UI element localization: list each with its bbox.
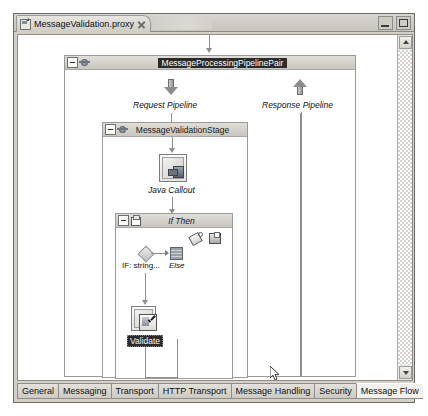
collapse-icon[interactable]	[67, 57, 78, 68]
connector-entry-line	[209, 35, 210, 49]
response-pipeline-label: Response Pipeline	[262, 100, 333, 110]
validate-exit-line	[145, 347, 146, 377]
pipeline-pair-title-wrap: MessageProcessingPipelinePair	[90, 58, 355, 68]
maximize-button[interactable]	[396, 16, 411, 30]
else-branch-line	[177, 339, 178, 377]
pipeline-pair-icon	[79, 57, 90, 68]
if-then-title-wrap: If Then	[141, 216, 232, 226]
validate-label: Validate	[127, 335, 163, 347]
if-then-icon	[130, 215, 141, 226]
stage-title: MessageValidationStage	[128, 125, 247, 135]
if-then-toolbar	[190, 231, 221, 244]
pipeline-pair-title: MessageProcessingPipelinePair	[158, 58, 288, 68]
if-then-header[interactable]: If Then	[116, 214, 232, 228]
arrow-down-icon	[164, 79, 178, 95]
canvas-inner: MessageProcessingPipelinePair Request Pi…	[18, 35, 412, 380]
validate-icon	[139, 314, 157, 331]
pipeline-pair-header[interactable]: MessageProcessingPipelinePair	[65, 56, 355, 70]
close-icon[interactable]	[137, 20, 146, 29]
tag-icon[interactable]	[190, 231, 203, 244]
response-trail-line	[301, 112, 302, 377]
editor-tab-strip: MessageValidation.proxy	[14, 14, 414, 32]
tab-security[interactable]: Security	[314, 383, 356, 399]
tab-messaging[interactable]: Messaging	[58, 383, 111, 399]
else-node[interactable]	[170, 247, 183, 260]
editor-tab-label: MessageValidation.proxy	[34, 19, 134, 29]
java-callout-node[interactable]	[159, 154, 187, 182]
note-icon[interactable]	[208, 231, 221, 244]
java-callout-label: Java Callout	[148, 185, 195, 195]
arrow-up-icon	[293, 79, 307, 95]
if-condition-node[interactable]	[138, 246, 155, 263]
tab-message-flow[interactable]: Message Flow	[356, 383, 423, 399]
connector-entry-arrow	[206, 48, 212, 53]
window-controls	[378, 16, 411, 30]
if-condition-label: IF: string...	[122, 261, 160, 270]
scrollbar-track[interactable]	[398, 50, 412, 365]
condition-to-else-arrow	[165, 250, 169, 256]
editor-tab-messagevalidation[interactable]: MessageValidation.proxy	[16, 15, 151, 32]
message-validation-stage-container[interactable]: MessageValidationStage Ja	[102, 122, 248, 378]
java-callout-icon	[168, 166, 184, 177]
validate-loop-line	[145, 377, 178, 378]
tab-transport[interactable]: Transport	[111, 383, 158, 399]
vertical-scrollbar[interactable]	[397, 35, 412, 380]
pipeline-pair-container[interactable]: MessageProcessingPipelinePair Request Pi…	[64, 55, 356, 377]
stage-header[interactable]: MessageValidationStage	[103, 123, 247, 137]
scroll-down-icon[interactable]	[399, 366, 412, 379]
tab-message-handling[interactable]: Message Handling	[231, 383, 315, 399]
validate-node-inner	[134, 309, 153, 328]
stage-title-wrap: MessageValidationStage	[128, 125, 247, 135]
else-label: Else	[169, 261, 185, 270]
java-callout-node-inner	[162, 157, 184, 179]
if-then-container[interactable]: If Then IF: string...	[115, 213, 233, 379]
scroll-up-icon[interactable]	[399, 36, 412, 49]
tab-http-transport[interactable]: HTTP Transport	[158, 383, 231, 399]
if-branch-line	[145, 273, 146, 302]
stage-icon	[117, 124, 128, 135]
if-branch-arrow	[142, 300, 148, 305]
tab-general[interactable]: General	[17, 383, 58, 399]
stage-entry-arrow	[169, 148, 175, 153]
validate-node[interactable]	[131, 306, 156, 331]
minimize-button[interactable]	[378, 16, 393, 30]
tab-strip-trail	[152, 16, 212, 30]
collapse-icon[interactable]	[118, 215, 129, 226]
bottom-tab-bar: General Messaging Transport HTTP Transpo…	[17, 383, 413, 399]
message-flow-canvas[interactable]: MessageProcessingPipelinePair Request Pi…	[17, 34, 413, 381]
collapse-icon[interactable]	[105, 124, 116, 135]
if-then-title: If Then	[141, 216, 232, 226]
request-pipeline-label: Request Pipeline	[133, 100, 197, 110]
proxy-file-icon	[20, 19, 31, 30]
editor-window: MessageValidation.proxy MessageProcessin…	[13, 13, 415, 403]
